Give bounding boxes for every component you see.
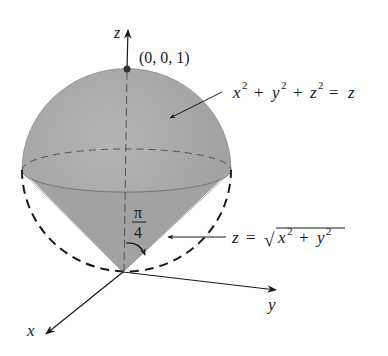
svg-text:x: x	[232, 83, 241, 102]
svg-text:+: +	[293, 83, 303, 102]
svg-text:+: +	[254, 83, 264, 102]
svg-text:=: =	[246, 228, 256, 247]
svg-text:y: y	[315, 228, 325, 247]
y-axis-label: y	[266, 295, 276, 314]
sphere-equation: x 2 + y 2 + z 2 = z	[232, 79, 355, 102]
svg-text:2: 2	[287, 225, 293, 237]
point-label: (0, 0, 1)	[139, 49, 190, 67]
svg-text:y: y	[270, 83, 280, 102]
svg-text:z: z	[347, 83, 355, 102]
svg-text:=: =	[329, 83, 339, 102]
cone-sphere-diagram: z y x (0, 0, 1) x 2 + y 2 + z 2 = z z = …	[0, 0, 388, 356]
svg-text:z: z	[309, 83, 317, 102]
z-axis-label: z	[113, 24, 121, 41]
svg-text:x: x	[277, 228, 286, 247]
svg-text:π: π	[134, 204, 142, 221]
svg-text:z: z	[231, 228, 239, 247]
svg-text:2: 2	[281, 79, 287, 91]
svg-text:2: 2	[242, 79, 248, 91]
point-0-0-1	[124, 66, 131, 73]
z-axis-upper	[127, 30, 128, 69]
y-axis	[123, 272, 276, 290]
cone-equation: z = √ x 2 + y 2	[231, 225, 345, 250]
svg-text:√: √	[264, 229, 275, 250]
svg-text:2: 2	[326, 225, 332, 237]
x-axis-label: x	[26, 321, 35, 340]
svg-text:+: +	[299, 228, 309, 247]
x-axis	[46, 272, 123, 334]
svg-text:2: 2	[318, 79, 324, 91]
svg-text:4: 4	[134, 224, 142, 241]
